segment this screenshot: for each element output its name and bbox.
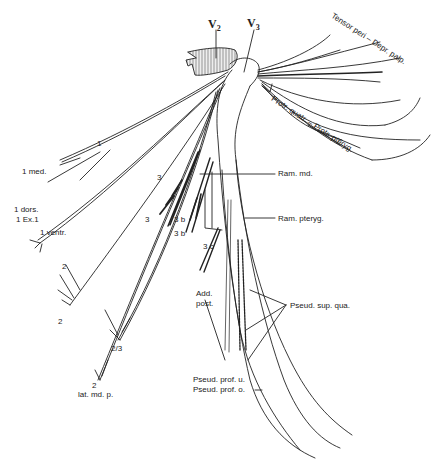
label-v2: V2 — [208, 18, 221, 33]
label-3b: 3 — [145, 216, 149, 224]
label-1: 1 — [97, 140, 101, 148]
label-pseud-sup-qua: Pseud. sup. qua. — [290, 302, 350, 310]
label-3a: 3 — [157, 174, 161, 182]
v3-leader — [244, 30, 254, 72]
label-1-med: 1 med. — [22, 168, 46, 176]
label-1-dors: 1 dors. — [14, 206, 38, 214]
label-pseud-prof-u: Pseud. prof. u. — [193, 376, 245, 384]
label-lat-md-p: lat. md. p. — [78, 391, 113, 399]
label-add: Add. — [196, 290, 212, 298]
label-ram-md: Ram. md. — [278, 170, 313, 178]
label-2a: 2 — [62, 263, 66, 271]
label-pseud-prof-o: Pseud. prof. o. — [193, 386, 245, 394]
label-3c: 3 c — [203, 243, 214, 251]
label-ram-pteryg: Ram. pteryg. — [278, 215, 324, 223]
label-2b: 2 — [58, 318, 62, 326]
label-2-3: 2/3 — [111, 345, 122, 353]
label-3b-2: 3 b — [174, 230, 185, 238]
label-3b-1: 3 b — [174, 216, 185, 224]
nerve-diagram — [0, 0, 445, 464]
label-1-ex: 1 Ex.1 — [16, 216, 39, 224]
label-v3: V3 — [247, 17, 260, 32]
v2-lobe — [186, 48, 237, 75]
label-post: post. — [196, 300, 213, 308]
label-2c: 2 — [92, 382, 96, 390]
label-1-ventr: 1 ventr. — [40, 229, 66, 237]
